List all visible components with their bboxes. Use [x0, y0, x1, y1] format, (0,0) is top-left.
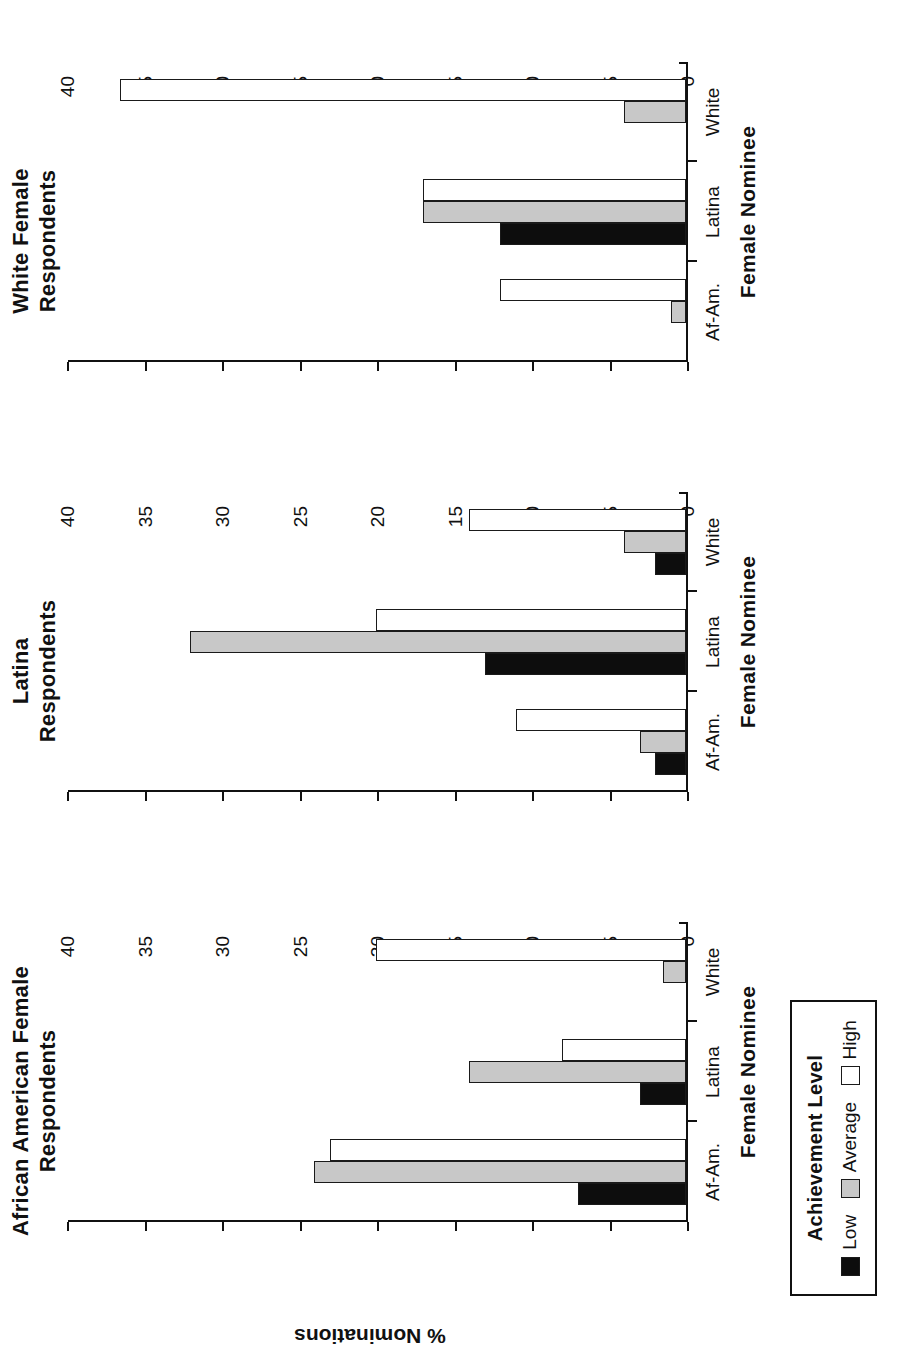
- y-axis-tick: [67, 792, 69, 801]
- bar-high: [423, 179, 687, 201]
- y-axis-tick: [610, 1222, 612, 1231]
- y-axis-tick: [300, 362, 302, 371]
- x-axis-tick: [688, 160, 697, 162]
- legend-label-high: High: [839, 1020, 861, 1059]
- bar-average: [624, 101, 686, 123]
- y-axis-tick: [377, 1222, 379, 1231]
- panel-white-female-respondents: White Female Respondents Female Nominee …: [60, 42, 760, 440]
- bar-low: [640, 1083, 687, 1105]
- bar-high: [376, 939, 686, 961]
- bar-high: [330, 1139, 687, 1161]
- y-axis-tick: [377, 362, 379, 371]
- x-axis-cap-right: [679, 492, 688, 494]
- y-axis-tick-label: 35: [135, 506, 157, 527]
- bar-high: [469, 509, 686, 531]
- x-axis-tick: [688, 690, 697, 692]
- panel-title: Latina Respondents: [8, 472, 62, 870]
- category-label: Af-Am.: [702, 713, 724, 771]
- bar-average: [423, 201, 687, 223]
- plot-area: Female Nominee 0510152025303540Af-Am.Lat…: [68, 492, 688, 792]
- y-axis-tick: [300, 1222, 302, 1231]
- legend-item-average: Average: [839, 1102, 861, 1198]
- bar-high: [120, 79, 686, 101]
- y-axis-tick: [67, 1222, 69, 1231]
- bar-average: [640, 731, 687, 753]
- panel-title: African American Female Respondents: [8, 902, 62, 1300]
- y-axis-tick: [222, 792, 224, 801]
- x-axis-line: [686, 922, 688, 1222]
- y-axis-tick: [687, 1222, 689, 1231]
- x-axis-tick: [688, 1020, 697, 1022]
- x-axis-cap-right: [679, 922, 688, 924]
- y-axis-tick: [300, 792, 302, 801]
- y-axis-tick: [377, 792, 379, 801]
- y-axis-tick-label: 35: [135, 936, 157, 957]
- bar-low: [655, 553, 686, 575]
- x-axis-title: Female Nominee: [736, 62, 760, 362]
- x-axis-line: [686, 62, 688, 362]
- y-axis-tick: [687, 362, 689, 371]
- bar-high: [562, 1039, 686, 1061]
- y-axis-tick: [455, 792, 457, 801]
- y-axis-tick-label: 25: [290, 506, 312, 527]
- x-axis-tick: [688, 1120, 697, 1122]
- y-axis-tick: [687, 792, 689, 801]
- category-label: Latina: [702, 186, 724, 238]
- legend-swatch-low-icon: [841, 1257, 860, 1276]
- bar-average: [663, 961, 686, 983]
- bar-low: [655, 753, 686, 775]
- bar-high: [500, 279, 686, 301]
- y-axis-title: % Nominations: [294, 1324, 446, 1348]
- rotated-figure-wrapper: % Nominations African American Female Re…: [0, 0, 910, 1356]
- y-axis-tick: [610, 362, 612, 371]
- y-axis-tick: [145, 792, 147, 801]
- legend-title: Achievement Level: [804, 1012, 827, 1284]
- y-axis-tick: [145, 362, 147, 371]
- x-axis-line: [686, 492, 688, 792]
- category-label: White: [702, 88, 724, 137]
- x-axis-title: Female Nominee: [736, 922, 760, 1222]
- bar-average: [314, 1161, 686, 1183]
- y-axis-tick-label: 30: [212, 936, 234, 957]
- category-label: White: [702, 518, 724, 567]
- bar-high: [376, 609, 686, 631]
- y-axis-tick: [145, 1222, 147, 1231]
- panel-african-american-female-respondents: African American Female Respondents Fema…: [60, 902, 760, 1300]
- category-label: Af-Am.: [702, 283, 724, 341]
- plot-area: Female Nominee 0510152025303540Af-Am.Lat…: [68, 62, 688, 362]
- y-axis-tick: [610, 792, 612, 801]
- panel-latina-respondents: Latina Respondents Female Nominee 051015…: [60, 472, 760, 870]
- plot-area: Female Nominee 0510152025303540Af-Am.Lat…: [68, 922, 688, 1222]
- y-axis-tick-label: 40: [57, 936, 79, 957]
- y-axis-tick: [532, 362, 534, 371]
- y-axis-tick: [532, 792, 534, 801]
- legend-item-high: High: [839, 1020, 861, 1085]
- bar-average: [671, 301, 687, 323]
- y-axis-tick-label: 30: [212, 506, 234, 527]
- category-label: White: [702, 948, 724, 997]
- bar-average: [469, 1061, 686, 1083]
- figure-canvas: % Nominations African American Female Re…: [0, 0, 910, 1356]
- legend-items: Low Average High: [839, 1012, 861, 1284]
- bar-average: [190, 631, 686, 653]
- legend-item-low: Low: [839, 1215, 861, 1276]
- category-label: Latina: [702, 616, 724, 668]
- y-axis-tick: [67, 362, 69, 371]
- x-axis-cap-right: [679, 62, 688, 64]
- legend-label-low: Low: [839, 1215, 861, 1250]
- y-axis-tick: [455, 1222, 457, 1231]
- y-axis-tick-label: 15: [445, 506, 467, 527]
- legend-swatch-high-icon: [841, 1066, 860, 1085]
- x-axis-tick: [688, 260, 697, 262]
- chart-page: % Nominations African American Female Re…: [0, 0, 910, 1356]
- panel-title: White Female Respondents: [8, 42, 62, 440]
- bar-low: [485, 653, 687, 675]
- bar-high: [516, 709, 687, 731]
- bar-average: [624, 531, 686, 553]
- y-axis-tick-label: 20: [367, 506, 389, 527]
- y-axis-tick: [222, 362, 224, 371]
- x-axis-title: Female Nominee: [736, 492, 760, 792]
- y-axis-tick-label: 40: [57, 76, 79, 97]
- bar-low: [500, 223, 686, 245]
- y-axis-tick: [222, 1222, 224, 1231]
